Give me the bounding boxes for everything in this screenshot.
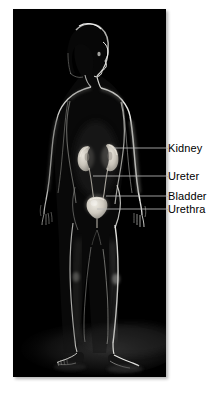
- annotation-label-bladder: Bladder: [168, 191, 207, 202]
- body-silhouette-illustration: [13, 9, 166, 377]
- annotation-label-kidney: Kidney: [168, 143, 202, 154]
- urinary-system-figure: Kidney Ureter Bladder Urethra: [0, 0, 210, 393]
- anatomy-photo-panel: [13, 9, 166, 377]
- annotation-label-urethra: Urethra: [168, 204, 205, 215]
- annotation-label-ureter: Ureter: [168, 171, 199, 182]
